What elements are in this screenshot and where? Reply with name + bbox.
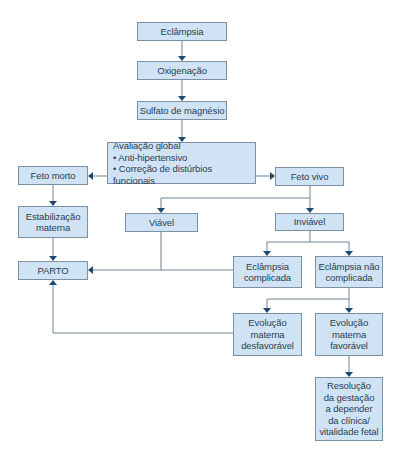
node-label-line: Eclâmpsia não [318,261,379,273]
node-label-line: materna [241,329,294,341]
edge-inviavel-branches [267,242,349,253]
edge-nao-complicada-desfavoravel [267,299,349,310]
node-label: Inviável [294,216,325,228]
node-label-line: Estabilização [26,211,81,223]
node-eclampsia-complicada: Eclâmpsia complicada [233,256,302,288]
node-label: Viável [149,217,174,229]
node-label-line: favorável [330,340,368,352]
node-label: Feto vivo [291,171,329,183]
node-label-line: a depender [319,403,378,415]
node-bullet: • Anti-hipertensivo [113,152,255,164]
node-label-line: complicada [244,272,291,284]
node-label-line: materna [26,222,81,234]
node-bullet: • Correção de distúrbios funcionais [113,163,255,186]
node-title: Avaliação global [113,140,255,152]
arrowhead [88,172,93,180]
arrowhead [49,280,57,285]
node-evolucao-favoravel: Evolução materna favorável [315,313,383,356]
node-feto-morto: Feto morto [18,166,88,185]
node-label: PARTO [37,265,68,277]
node-parto: PARTO [18,261,88,280]
node-eclampsia: Eclâmpsia [137,22,227,41]
node-viavel: Viável [125,213,198,232]
node-label-line: da clínica/ [319,415,378,427]
node-label-line: Eclâmpsia [244,261,291,273]
node-label-line: da gestação [319,392,378,404]
node-avaliacao-global: Avaliação global • Anti-hipertensivo • C… [107,142,256,184]
node-sulfato-magnesio: Sulfato de magnésio [137,101,227,120]
node-evolucao-desfavoravel: Evolução materna desfavorável [233,313,302,356]
node-label-line: Evolução [330,317,368,329]
node-label: Sulfato de magnésio [140,105,225,117]
node-label: Eclâmpsia [161,26,204,38]
node-resolucao-gestacao: Resolução da gestação a depender da clín… [315,377,383,441]
edge-desfavoravel-parto [53,283,233,333]
node-label-line: Evolução [241,317,294,329]
node-oxigenacao: Oxigenação [137,61,227,80]
node-label-line: complicada [318,272,379,284]
node-inviavel: Inviável [275,213,344,231]
node-feto-vivo: Feto vivo [275,167,344,186]
arrowhead [88,266,93,274]
node-estabilizacao-materna: Estabilização materna [18,206,88,238]
node-label-line: materna [330,329,368,341]
node-label: Oxigenação [157,65,207,77]
node-label-line: Resolução [319,380,378,392]
node-label-line: desfavorável [241,340,294,352]
node-eclampsia-nao-complicada: Eclâmpsia não complicada [315,256,383,288]
edge-feto-vivo-viavel [161,198,310,210]
node-label-line: vitalidade fetal [319,426,378,438]
node-label: Feto morto [31,170,76,182]
